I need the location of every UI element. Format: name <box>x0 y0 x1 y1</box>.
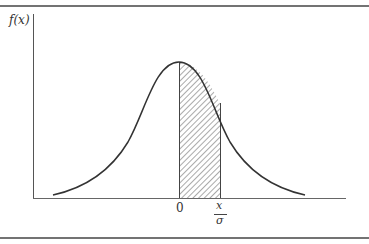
shaded-area <box>179 62 220 198</box>
x-tick-numerator: x <box>216 199 222 212</box>
y-axis-label: f(x) <box>9 13 30 27</box>
normal-curve-diagram <box>0 0 369 244</box>
x-tick-zero: 0 <box>176 201 184 215</box>
x-tick-denominator: σ <box>216 214 224 227</box>
